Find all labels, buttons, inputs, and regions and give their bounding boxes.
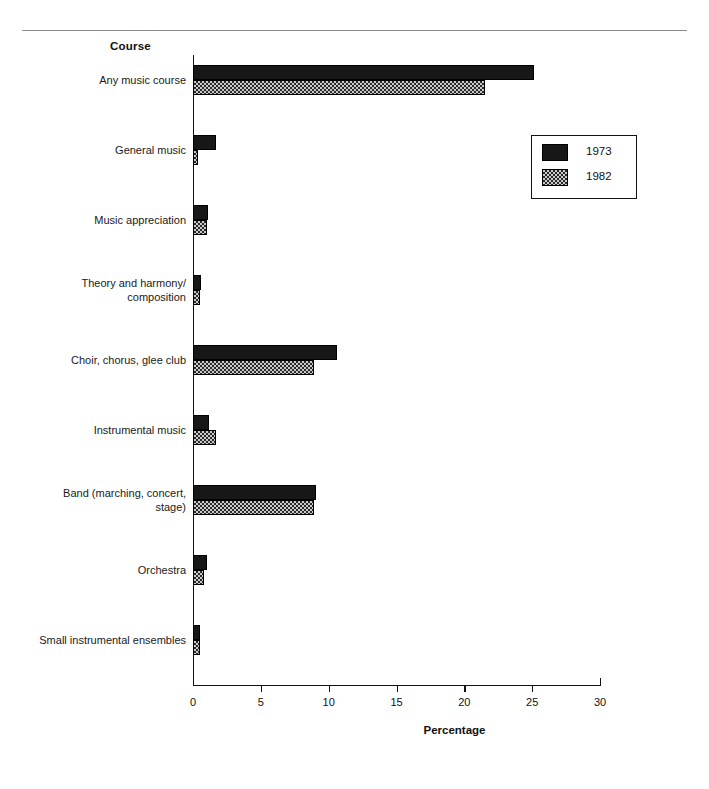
bar-1982 — [193, 80, 485, 95]
x-tick-label: 10 — [314, 696, 344, 708]
chart-page: Course Any music courseGeneral musicMusi… — [0, 0, 709, 789]
x-tick — [329, 685, 330, 692]
bar-1982 — [193, 220, 207, 235]
category-label-line: General music — [6, 143, 186, 157]
x-tick — [397, 685, 398, 692]
x-tick-label: 0 — [178, 696, 208, 708]
category-label-line: Theory and harmony/ — [6, 276, 186, 290]
x-tick-label: 5 — [246, 696, 276, 708]
category-label-line: Band (marching, concert, — [6, 486, 186, 500]
bar-1973 — [193, 65, 534, 80]
legend-swatch-1982 — [542, 169, 568, 186]
bar-1982 — [193, 640, 200, 655]
x-tick — [600, 678, 601, 686]
category-label-line: Choir, chorus, glee club — [6, 353, 186, 367]
bar-1973 — [193, 485, 316, 500]
bar-1973 — [193, 625, 200, 640]
bar-1982 — [193, 570, 204, 585]
legend-label-1973: 1973 — [586, 145, 612, 157]
x-tick — [193, 678, 194, 686]
category-label-line: Small instrumental ensembles — [6, 633, 186, 647]
x-axis-title-text: Percentage — [423, 724, 485, 736]
category-label: Small instrumental ensembles — [6, 633, 186, 647]
bar-1973 — [193, 275, 201, 290]
category-label: Band (marching, concert,stage) — [6, 486, 186, 514]
bar-1973 — [193, 555, 207, 570]
bar-1982 — [193, 360, 314, 375]
category-label: Orchestra — [6, 563, 186, 577]
bar-1973 — [193, 415, 209, 430]
category-label: Theory and harmony/composition — [6, 276, 186, 304]
category-label-line: Instrumental music — [6, 423, 186, 437]
category-label-line: stage) — [6, 500, 186, 514]
category-label-line: Orchestra — [6, 563, 186, 577]
bar-1982 — [193, 290, 200, 305]
x-tick — [261, 685, 262, 692]
category-label: Choir, chorus, glee club — [6, 353, 186, 367]
bar-1973 — [193, 345, 337, 360]
x-tick-label: 30 — [585, 696, 615, 708]
category-label-line: composition — [6, 290, 186, 304]
x-tick-label: 15 — [382, 696, 412, 708]
x-tick-label: 25 — [517, 696, 547, 708]
legend: 1973 1982 — [531, 135, 637, 199]
category-label-line: Music appreciation — [6, 213, 186, 227]
bar-1982 — [193, 500, 314, 515]
legend-label-1982: 1982 — [586, 170, 612, 182]
bar-1973 — [193, 205, 208, 220]
bar-1982 — [193, 430, 216, 445]
bar-1973 — [193, 135, 216, 150]
category-label: General music — [6, 143, 186, 157]
category-label: Instrumental music — [6, 423, 186, 437]
x-tick — [532, 685, 533, 692]
legend-swatch-1973 — [542, 144, 568, 161]
category-label: Any music course — [6, 73, 186, 87]
category-label-group: Any music courseGeneral musicMusic appre… — [0, 0, 186, 789]
x-tick — [464, 685, 465, 692]
category-label: Music appreciation — [6, 213, 186, 227]
x-tick-label: 20 — [449, 696, 479, 708]
bar-1982 — [193, 150, 198, 165]
category-label-line: Any music course — [6, 73, 186, 87]
x-axis-title: Percentage — [0, 724, 709, 736]
